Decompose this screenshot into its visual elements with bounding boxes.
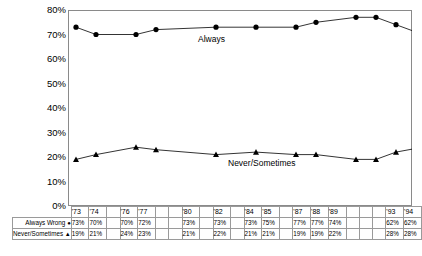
table-value-cell: 75% xyxy=(262,218,280,229)
table-row-header: Never/Sometimes ▲ xyxy=(13,229,72,240)
data-point xyxy=(93,32,98,37)
x-axis-year-label: '77 xyxy=(138,207,156,218)
table-value-cell xyxy=(107,229,120,240)
table-value-cell: 22% xyxy=(328,229,346,240)
x-axis-year-label xyxy=(373,207,386,218)
data-point xyxy=(73,25,78,30)
x-axis-year-label: '87 xyxy=(293,207,311,218)
x-axis-year-label: '88 xyxy=(311,207,329,218)
x-axis-year-label: '93 xyxy=(386,207,404,218)
series-line-never-sometimes xyxy=(76,137,412,159)
table-value-cell xyxy=(346,229,359,240)
table-value-cell: 73% xyxy=(213,218,231,229)
data-point xyxy=(313,20,318,25)
table-value-cell: 21% xyxy=(182,229,200,240)
x-axis-year-label: '73 xyxy=(71,207,89,218)
table-value-cell: 21% xyxy=(89,229,107,240)
table-value-cell: 70% xyxy=(120,218,138,229)
table-value-cell: 19% xyxy=(311,229,329,240)
x-axis-year-label xyxy=(155,207,168,218)
table-value-cell xyxy=(169,218,182,229)
x-axis-year-label xyxy=(231,207,244,218)
table-value-cell: 73% xyxy=(182,218,200,229)
table-value-cell xyxy=(280,218,293,229)
table-value-cell: 70% xyxy=(89,218,107,229)
table-value-cell: 23% xyxy=(138,229,156,240)
data-table: '73'74'76'77'80'82'84'85'87'88'89'93'94A… xyxy=(12,206,422,240)
data-point xyxy=(373,15,378,20)
x-axis-year-label xyxy=(280,207,293,218)
table-value-cell xyxy=(231,229,244,240)
x-axis-year-label: '76 xyxy=(120,207,138,218)
table-value-cell xyxy=(200,229,213,240)
x-axis-year-label xyxy=(200,207,213,218)
y-tick-label: 20% xyxy=(4,152,66,162)
table-value-cell: 73% xyxy=(71,218,89,229)
table-value-cell: 28% xyxy=(404,229,422,240)
table-value-cell xyxy=(346,218,359,229)
series-annotation-always: Always xyxy=(198,34,225,44)
data-point xyxy=(253,25,258,30)
x-axis-year-label: '80 xyxy=(182,207,200,218)
table-value-cell: 21% xyxy=(262,229,280,240)
y-tick-label: 10% xyxy=(4,177,66,187)
table-value-cell xyxy=(169,229,182,240)
data-point xyxy=(133,32,138,37)
table-value-cell: 72% xyxy=(138,218,156,229)
data-point xyxy=(133,144,139,150)
table-value-cell: 62% xyxy=(404,218,422,229)
table-value-cell xyxy=(155,229,168,240)
x-axis-year-label xyxy=(359,207,372,218)
x-axis-year-label: '85 xyxy=(262,207,280,218)
y-tick-label: 60% xyxy=(4,54,66,64)
table-value-cell: 74% xyxy=(328,218,346,229)
series-line-always-wrong xyxy=(76,17,412,54)
table-value-cell xyxy=(107,218,120,229)
y-tick-label: 30% xyxy=(4,128,66,138)
x-axis-year-label xyxy=(169,207,182,218)
series-annotation-never-sometimes: Never/Sometimes xyxy=(228,158,296,168)
x-axis-year-label: '74 xyxy=(89,207,107,218)
table-value-cell xyxy=(373,218,386,229)
x-axis-year-label: '82 xyxy=(213,207,231,218)
table-value-cell: 62% xyxy=(386,218,404,229)
table-value-cell xyxy=(373,229,386,240)
table-value-cell: 19% xyxy=(293,229,311,240)
table-row: Never/Sometimes ▲19%21%24%23%21%22%21%21… xyxy=(13,229,422,240)
x-axis-year-label: '94 xyxy=(404,207,422,218)
table-row-label: Always Wrong xyxy=(25,219,65,226)
table-value-cell: 24% xyxy=(120,229,138,240)
table-row-years: '73'74'76'77'80'82'84'85'87'88'89'93'94 xyxy=(13,207,422,218)
table-value-cell xyxy=(280,229,293,240)
triangle-marker-icon: ▲ xyxy=(65,231,71,237)
data-point xyxy=(153,27,158,32)
table-row-header: Always Wrong ● xyxy=(13,218,72,229)
data-point xyxy=(293,25,298,30)
y-tick-label: 50% xyxy=(4,79,66,89)
table-value-cell: 77% xyxy=(293,218,311,229)
chart-screenshot: 80%70%60%50%40%30%20%10%0% Always Never/… xyxy=(0,0,422,256)
table-row-label: Never/Sometimes xyxy=(13,230,63,237)
y-axis: 80%70%60%50%40%30%20%10%0% xyxy=(0,0,66,206)
table-value-cell: 22% xyxy=(213,229,231,240)
series-canvas xyxy=(68,10,412,206)
table-value-cell: 77% xyxy=(311,218,329,229)
x-axis-year-label xyxy=(346,207,359,218)
circle-marker-icon: ● xyxy=(67,220,71,226)
table-value-cell: 28% xyxy=(386,229,404,240)
table-row: Always Wrong ●73%70%70%72%73%73%73%75%77… xyxy=(13,218,422,229)
data-point xyxy=(353,15,358,20)
table-value-cell xyxy=(200,218,213,229)
table-value-cell xyxy=(359,218,372,229)
data-point xyxy=(213,25,218,30)
table-value-cell xyxy=(155,218,168,229)
y-tick-label: 80% xyxy=(4,5,66,15)
table-value-cell xyxy=(231,218,244,229)
table-value-cell xyxy=(359,229,372,240)
y-tick-label: 40% xyxy=(4,103,66,113)
table-value-cell: 21% xyxy=(244,229,262,240)
x-axis-year-label: '89 xyxy=(328,207,346,218)
table-value-cell: 73% xyxy=(244,218,262,229)
table-corner-cell xyxy=(13,207,72,218)
plot-area: Always Never/Sometimes xyxy=(68,10,412,206)
